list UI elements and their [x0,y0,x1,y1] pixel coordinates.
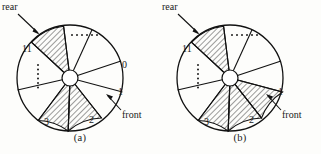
label-2-a: 2 [89,115,94,125]
wheel-diagram-a [0,0,160,154]
label-rear-b: rear [162,2,178,12]
label-11-b: 11 [182,44,192,54]
figure-root: rear 11 0 1 front 3 2 (a) [0,0,321,154]
label-1-a: 1 [118,87,123,97]
label-3-b: 3 [204,117,209,127]
ellipsis-horizontal-icon [71,34,98,36]
panel-b: rear 11 1 front 3 2 (b) [160,0,320,154]
label-0-a: 0 [122,60,127,70]
label-rear-a: rear [2,2,18,12]
center-hub-icon [62,70,78,86]
ellipsis-horizontal-icon [231,34,258,36]
wheel-diagram-b [160,0,320,154]
caption-b: (b) [160,132,320,143]
label-front-a: front [122,110,141,120]
label-3-a: 3 [44,117,49,127]
center-hub-icon [222,70,238,86]
label-front-b: front [282,110,301,120]
label-11-a: 11 [22,44,32,54]
label-2-b: 2 [249,115,254,125]
front-arrowhead-icon [106,94,113,100]
panel-a: rear 11 0 1 front 3 2 (a) [0,0,160,154]
label-1-b: 1 [278,87,283,97]
caption-a: (a) [0,132,160,143]
